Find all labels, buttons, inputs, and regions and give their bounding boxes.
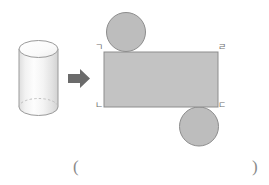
net-vertex-label-top-right: ㄹ xyxy=(218,43,226,52)
net-lateral-rectangle xyxy=(104,52,218,107)
transform-arrow-icon xyxy=(68,69,90,88)
cylinder-body xyxy=(19,49,58,116)
cylinder-net-figure xyxy=(104,13,219,147)
figure-canvas: ㄱ ㄹ ㄴ ㄷ ( ) xyxy=(0,0,269,185)
answer-blank-open-paren: ( xyxy=(73,158,79,175)
geometry-figure xyxy=(0,0,269,185)
net-bottom-base-circle xyxy=(180,107,219,146)
cylinder-solid xyxy=(19,41,58,116)
answer-blank-close-paren: ) xyxy=(252,158,258,175)
arrow-right-icon xyxy=(68,69,90,88)
net-vertex-label-bottom-right: ㄷ xyxy=(218,101,226,110)
net-vertex-label-bottom-left: ㄴ xyxy=(95,101,103,110)
net-vertex-label-top-left: ㄱ xyxy=(95,43,103,52)
cylinder-top-face xyxy=(19,41,58,58)
net-top-base-circle xyxy=(107,13,146,52)
